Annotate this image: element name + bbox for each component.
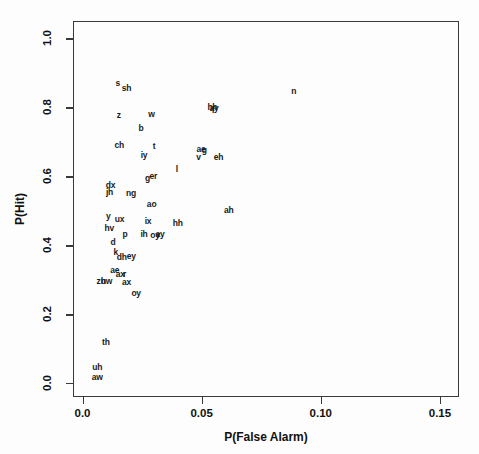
x-axis-label: P(False Alarm) [224,430,308,444]
data-point-label: p [122,230,127,239]
data-point-label: iy [141,151,148,160]
data-point-label: uw [101,277,112,286]
plot-frame [73,21,459,397]
x-tick [321,397,322,404]
data-point-label: th [102,338,110,347]
y-tick-label: 0.2 [41,306,53,322]
y-tick [66,38,73,39]
data-point-label: jh [106,188,113,197]
data-point-label: ng [126,189,136,198]
data-point-label: y [106,212,111,221]
data-point-label: b [138,124,143,133]
data-point-label: r [157,231,160,240]
y-axis-label: P(Hit) [13,193,27,225]
data-point-label: ah [224,206,234,215]
data-point-label: ix [145,217,152,226]
data-point-label: ao [147,200,157,209]
data-point-label: hv [104,224,114,233]
y-tick [66,245,73,246]
x-tick-label: 0.05 [190,407,212,419]
data-point-label: oy [131,289,141,298]
y-tick-label: 0.6 [41,168,53,184]
data-point-label: ey [127,252,136,261]
data-point-label: uh [92,363,102,372]
data-point-label: ax [122,278,131,287]
data-point-label: sh [122,84,132,93]
data-point-label: z [117,111,121,120]
y-tick [66,314,73,315]
data-point-label: dh [117,252,127,261]
data-point-label: eh [214,152,224,161]
data-point-label: w [148,110,154,119]
y-tick [66,107,73,108]
data-point-label: er [149,172,157,181]
data-point-label: s [116,78,121,87]
data-point-label: ch [114,141,124,150]
data-point-label: t [153,142,156,151]
x-tick-label: 0.0 [75,407,91,419]
y-tick [66,176,73,177]
y-tick-label: 0.8 [41,99,53,115]
data-point-label: ux [115,214,125,223]
data-point-label: f [212,105,215,114]
data-point-label: hh [173,219,183,228]
data-point-label: n [291,86,296,95]
data-point-label: d [111,238,116,247]
data-point-label: aw [92,373,103,382]
x-tick-label: 0.10 [310,407,332,419]
y-tick [66,383,73,384]
x-tick [202,397,203,404]
data-point-label: g [202,146,207,155]
y-tick-label: 0.4 [41,237,53,253]
y-tick-label: 0.0 [41,375,53,391]
data-point-label: l [176,165,178,174]
x-tick [440,397,441,404]
data-point-label: v [196,153,201,162]
scatter-plot-figure: sshnhhayfzwbchtaegiyvehlgerdxjhngaoahyux… [0,0,479,454]
y-tick-label: 1.0 [41,30,53,46]
x-tick [83,397,84,404]
data-point-label: ih [140,230,147,239]
x-tick-label: 0.15 [429,407,451,419]
